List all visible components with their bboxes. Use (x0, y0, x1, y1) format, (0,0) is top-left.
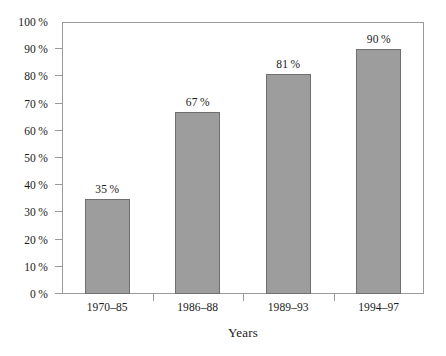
y-tick-mark (55, 184, 62, 185)
y-tick-label: 90 % (24, 40, 48, 58)
y-tick-mark (55, 266, 62, 267)
y-tick-label: 60 % (24, 122, 48, 140)
x-tick-label: 1994–97 (334, 301, 425, 313)
bar[interactable] (175, 112, 220, 294)
x-tick-label: 1989–93 (243, 301, 334, 313)
x-tick-mark (334, 294, 335, 301)
x-tick-label: 1970–85 (62, 301, 153, 313)
y-tick-label: 80 % (24, 67, 48, 85)
bar-group[interactable]: 35 % (85, 22, 130, 294)
y-tick-label: 100 % (18, 13, 48, 31)
x-tick-label: 1986–88 (153, 301, 244, 313)
x-axis-title: Years (62, 325, 424, 341)
bar[interactable] (266, 74, 311, 294)
y-tick-mark (55, 103, 62, 104)
y-tick-label: 10 % (24, 258, 48, 276)
y-tick-mark (55, 211, 62, 212)
bars-layer: 35 %67 %81 %90 % (62, 22, 424, 294)
bar-value-label: 90 % (367, 33, 391, 45)
y-tick-label: 0 % (30, 285, 48, 303)
bar-group[interactable]: 67 % (175, 22, 220, 294)
bar-group[interactable]: 90 % (356, 22, 401, 294)
y-tick-label: 70 % (24, 95, 48, 113)
bar-value-label: 67 % (186, 96, 210, 108)
y-tick-label: 40 % (24, 176, 48, 194)
y-axis: 0 %10 %20 %30 %40 %50 %60 %70 %80 %90 %1… (0, 0, 62, 356)
y-tick-mark (55, 130, 62, 131)
y-tick-mark (55, 239, 62, 240)
y-tick-mark (55, 75, 62, 76)
x-tick-mark (153, 294, 154, 301)
bar-value-label: 35 % (95, 183, 119, 195)
y-tick-mark (55, 293, 62, 294)
bar[interactable] (356, 49, 401, 294)
y-tick-label: 30 % (24, 203, 48, 221)
bar-value-label: 81 % (276, 58, 300, 70)
y-tick-label: 50 % (24, 149, 48, 167)
y-tick-mark (55, 48, 62, 49)
bar-group[interactable]: 81 % (266, 22, 311, 294)
y-tick-label: 20 % (24, 231, 48, 249)
x-tick-mark (243, 294, 244, 301)
bar[interactable] (85, 199, 130, 294)
y-tick-mark (55, 157, 62, 158)
bar-chart: 0 %10 %20 %30 %40 %50 %60 %70 %80 %90 %1… (0, 0, 446, 356)
